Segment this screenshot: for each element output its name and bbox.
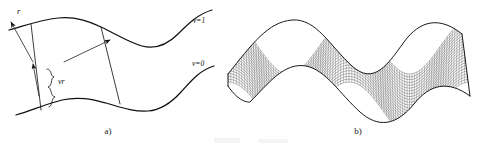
mesh-ruling [332, 28, 334, 90]
mesh-ruling [236, 22, 237, 84]
ruling-right [101, 27, 120, 104]
mesh-crest-edge [228, 20, 462, 74]
figure-root: r vr v=1 v=0 a) b) [0, 0, 480, 149]
mesh-ruling [283, 73, 284, 135]
mesh-ruling [423, 66, 425, 128]
mesh-ruling [440, 43, 442, 105]
mesh-ruling [321, 40, 323, 102]
scan-artifact-left [214, 138, 240, 143]
mesh-ruling [437, 47, 439, 109]
mesh-ruling [307, 61, 309, 123]
mesh-ruling [316, 47, 318, 109]
mesh-ruling [379, 47, 381, 109]
mesh-ruling [276, 68, 277, 130]
mesh-ruling [281, 72, 282, 134]
label-vector-r: r [17, 6, 21, 16]
iso-curve-v0 [16, 66, 214, 115]
directrix-arrow [64, 40, 110, 62]
mesh-ruling [295, 72, 296, 134]
mesh-ruling [258, 47, 260, 109]
ruling-left [31, 24, 41, 110]
mesh-ruling [238, 24, 239, 86]
mesh-ruling [261, 51, 263, 113]
mesh-ruling [343, 21, 344, 83]
mesh-ruling [263, 54, 265, 116]
label-offset-vr: vr [58, 77, 66, 86]
scan-artifacts [214, 138, 288, 143]
label-iso-v1: v=1 [193, 16, 205, 25]
mesh-ruling [293, 73, 294, 135]
caption-panel-a: a) [105, 126, 112, 136]
mesh-ruling [304, 63, 306, 125]
figure-svg: r vr v=1 v=0 a) b) [0, 0, 480, 149]
panel-a: r vr v=1 v=0 a) [9, 6, 214, 136]
mesh-ruling [300, 68, 301, 130]
mesh-ruling [377, 43, 379, 105]
mesh-ruling [233, 21, 234, 83]
mesh-right-tip [462, 34, 470, 96]
mesh-ruling [382, 51, 384, 113]
panel-b: b) [228, 20, 470, 136]
mesh-ruling [442, 40, 444, 102]
mesh-ruling [302, 66, 304, 128]
offset-brace [47, 69, 55, 107]
mesh-ruling [357, 22, 358, 84]
mesh-body [228, 20, 470, 136]
mesh-ruling [384, 54, 386, 116]
mesh-ruling [418, 70, 419, 132]
mesh-profile [228, 82, 470, 136]
mesh-ruling [432, 54, 434, 116]
mesh-ruling [319, 43, 321, 105]
mesh-ruling [278, 70, 279, 132]
iso-curve-v1 [9, 10, 212, 47]
mesh-u-lines [228, 20, 470, 136]
mesh-ruling [341, 22, 342, 84]
label-iso-v0: v=0 [192, 59, 204, 68]
mesh-ruling [314, 51, 316, 113]
mesh-ruling [311, 54, 313, 116]
mesh-ruling [359, 24, 360, 86]
mesh-ruling [399, 70, 400, 132]
mesh-ruling [338, 24, 339, 86]
mesh-ruling [435, 51, 437, 113]
mesh-ruling [273, 66, 275, 128]
mesh-ruling [459, 24, 460, 86]
mesh-ruling [354, 21, 355, 83]
vector-r-arrow [11, 22, 33, 62]
mesh-ruling [297, 70, 298, 132]
mesh-ruling [416, 72, 417, 134]
mesh-ruling [329, 31, 331, 93]
caption-panel-b: b) [354, 126, 362, 136]
scan-artifact-right [258, 139, 288, 143]
